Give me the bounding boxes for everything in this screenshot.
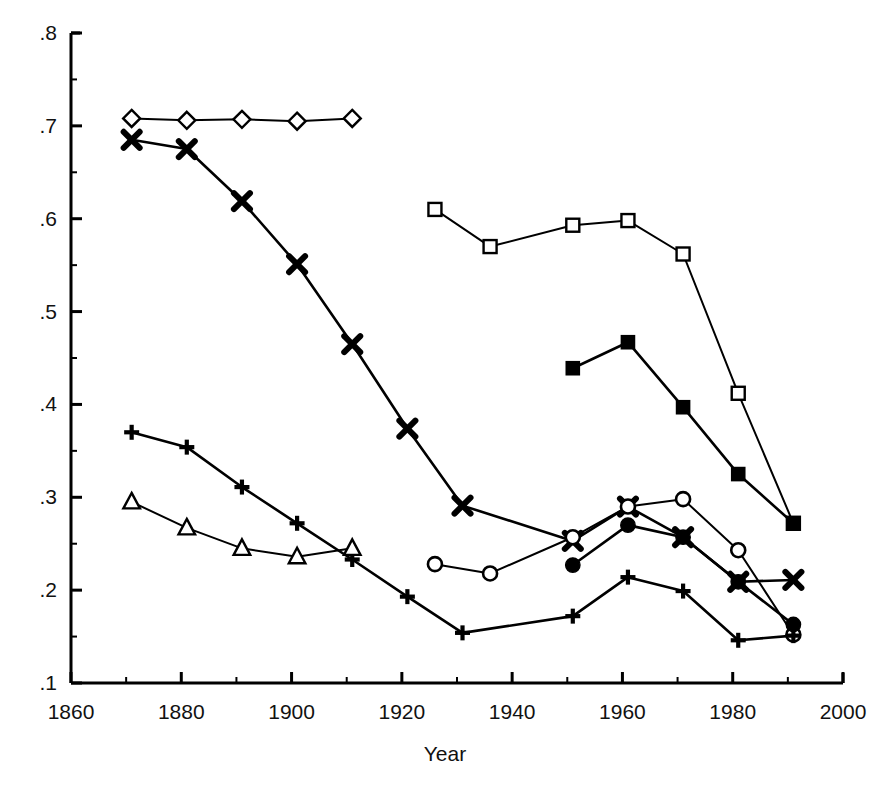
- y-axis-tick-label: .1: [13, 672, 57, 693]
- data-point-open-square: [484, 240, 497, 253]
- data-point-open-square: [428, 203, 441, 216]
- data-point-open-circle: [566, 530, 580, 544]
- data-point-filled-square: [677, 401, 690, 414]
- data-point-bold-cross: [455, 498, 471, 514]
- x-axis-tick-label: 1960: [582, 701, 662, 722]
- data-point-open-diamond: [289, 113, 306, 130]
- data-point-open-circle: [731, 543, 745, 557]
- data-point-open-circle: [676, 492, 690, 506]
- data-point-open-triangle: [344, 539, 361, 554]
- data-point-filled-circle: [731, 575, 745, 589]
- data-point-open-square: [621, 214, 634, 227]
- x-axis-tick-label: 1920: [362, 701, 442, 722]
- data-point-plus: [124, 425, 139, 440]
- data-point-bold-cross: [289, 256, 305, 272]
- data-point-bold-cross: [344, 336, 360, 352]
- y-axis-tick-label: .3: [13, 486, 57, 507]
- chart-plot-area: [0, 0, 890, 794]
- series-line-plus: [132, 432, 794, 640]
- data-point-filled-square: [787, 517, 800, 530]
- data-point-open-diamond: [344, 110, 361, 127]
- data-point-open-triangle: [123, 493, 140, 508]
- data-point-filled-square: [566, 362, 579, 375]
- y-axis-tick-label: .6: [13, 208, 57, 229]
- y-axis-tick-label: .2: [13, 579, 57, 600]
- data-point-filled-circle: [621, 518, 635, 532]
- data-point-open-square: [677, 248, 690, 261]
- x-axis-tick-label: 1980: [693, 701, 773, 722]
- data-point-bold-cross: [399, 421, 415, 437]
- data-point-open-diamond: [178, 112, 195, 129]
- chart-container: .8.7.6.5.4.3.2.1186018801900192019401960…: [0, 0, 890, 794]
- x-axis-title: Year: [0, 742, 890, 766]
- y-axis-tick-label: .5: [13, 301, 57, 322]
- data-point-filled-square: [621, 336, 634, 349]
- y-axis-tick-label: .8: [13, 22, 57, 43]
- data-point-open-diamond: [123, 110, 140, 127]
- y-axis-tick-label: .4: [13, 393, 57, 414]
- x-axis-tick-label: 1880: [141, 701, 221, 722]
- series-line-bold-cross: [132, 140, 794, 582]
- data-point-open-circle: [483, 566, 497, 580]
- data-point-plus: [400, 589, 415, 604]
- x-axis-tick-label: 1860: [31, 701, 111, 722]
- data-point-open-circle: [621, 500, 635, 514]
- data-point-open-diamond: [233, 111, 250, 128]
- data-point-filled-circle: [676, 530, 690, 544]
- x-axis-tick-label: 2000: [803, 701, 883, 722]
- data-point-open-square: [732, 387, 745, 400]
- data-point-plus: [290, 516, 305, 531]
- y-axis-tick-label: .7: [13, 115, 57, 136]
- data-point-bold-cross: [234, 193, 250, 209]
- x-axis-tick-label: 1900: [252, 701, 332, 722]
- data-point-open-square: [566, 219, 579, 232]
- data-point-filled-circle: [566, 558, 580, 572]
- data-point-plus: [455, 625, 470, 640]
- x-axis-tick-label: 1940: [472, 701, 552, 722]
- data-point-open-triangle: [179, 519, 196, 534]
- data-point-open-circle: [428, 557, 442, 571]
- data-point-filled-square: [732, 468, 745, 481]
